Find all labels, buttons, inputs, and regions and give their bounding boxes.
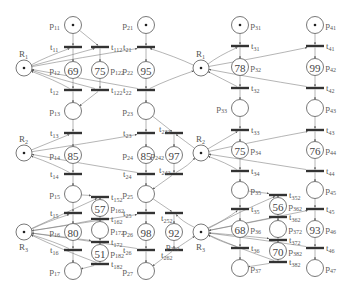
transition-label-t232-sub: 232 bbox=[162, 129, 171, 135]
place-p31: p31 bbox=[232, 17, 262, 34]
place-value: 76 bbox=[310, 145, 322, 157]
transition-label-t352: t352 bbox=[289, 190, 301, 201]
place-value: 85 bbox=[68, 150, 80, 162]
place-label-p42: p42 bbox=[326, 62, 337, 73]
place-label-p26-sub: 26 bbox=[127, 232, 133, 238]
place-label-p33-sub: 33 bbox=[221, 108, 227, 114]
place-label-p43: p43 bbox=[326, 103, 337, 114]
transition-label-t15-sub: 15 bbox=[53, 213, 59, 219]
transition-label-t182-sub: 182 bbox=[114, 264, 123, 270]
place-label-p162-sub: 162 bbox=[115, 208, 124, 214]
place-label-p13-sub: 13 bbox=[54, 111, 60, 117]
place-circle bbox=[65, 103, 82, 120]
transition-label-t262: t262 bbox=[161, 250, 173, 261]
place-label-p15: p15 bbox=[50, 189, 61, 200]
place-value: 69 bbox=[68, 65, 80, 77]
resource-arc-t22-R1M bbox=[150, 71, 194, 89]
transition-t34: t34 bbox=[231, 166, 260, 177]
transition-label-t12: t12 bbox=[50, 85, 59, 96]
transition-label-t43: t43 bbox=[326, 125, 335, 136]
transition-label-t14-sub: 14 bbox=[53, 174, 59, 180]
transition-label-t382-sub: 382 bbox=[292, 262, 301, 268]
place-p11: p11 bbox=[50, 17, 82, 34]
transition-label-t112: t112 bbox=[111, 42, 122, 53]
token-dot bbox=[200, 152, 203, 155]
transition-t44: t44 bbox=[306, 166, 335, 177]
transition-t26: t26 bbox=[123, 245, 155, 256]
place-label-p27: p27 bbox=[123, 266, 134, 277]
resource-label-R1-sub: 1 bbox=[25, 54, 28, 60]
transition-label-t45: t45 bbox=[326, 204, 335, 215]
place-label-p35-sub: 35 bbox=[255, 190, 261, 196]
place-label-p42-sub: 42 bbox=[330, 67, 336, 73]
transition-label-t41: t41 bbox=[326, 41, 335, 52]
transition-label-t172: t172 bbox=[111, 237, 123, 248]
transition-label-t16-sub: 16 bbox=[53, 250, 59, 256]
place-circle bbox=[138, 263, 155, 280]
resource-label-R1: R1 bbox=[19, 49, 28, 60]
place-circle bbox=[307, 182, 324, 199]
place-circle bbox=[232, 100, 249, 117]
place-label-p27-sub: 27 bbox=[127, 271, 133, 277]
place-label-p36: p36 bbox=[251, 224, 262, 235]
place-label-p23: p23 bbox=[123, 106, 134, 117]
place-p35: p35 bbox=[232, 182, 262, 199]
place-label-p37: p37 bbox=[251, 263, 262, 274]
resource-R2-left: R2 bbox=[16, 134, 32, 161]
place-p12: 69p12 bbox=[50, 62, 82, 79]
place-p122: 75p122 bbox=[92, 62, 125, 79]
place-p15: p15 bbox=[50, 186, 82, 203]
place-label-p372: p372 bbox=[289, 224, 303, 235]
transition-label-t26: t26 bbox=[123, 245, 132, 256]
place-label-p372-sub: 372 bbox=[293, 229, 302, 235]
transition-label-t24-sub: 24 bbox=[126, 174, 132, 180]
place-label-p31: p31 bbox=[251, 20, 262, 31]
place-label-p12: p12 bbox=[50, 65, 61, 76]
place-circle bbox=[92, 222, 109, 239]
transition-t36: t36 bbox=[231, 243, 260, 254]
transition-label-t21: t21 bbox=[123, 42, 132, 53]
token-dot bbox=[23, 152, 26, 155]
place-label-p46: p46 bbox=[326, 224, 337, 235]
transition-label-t43-sub: 43 bbox=[329, 130, 335, 136]
resource-arc-t34-R2M bbox=[208, 156, 236, 169]
token-dot bbox=[72, 24, 75, 27]
arc-t122-p13 bbox=[80, 92, 98, 106]
transition-label-t362-sub: 362 bbox=[292, 217, 301, 223]
place-value: 92 bbox=[169, 227, 180, 239]
resource-label-R2-sub: 2 bbox=[202, 139, 205, 145]
place-label-p43-sub: 43 bbox=[330, 108, 336, 114]
place-p14: 85p14 bbox=[50, 147, 82, 164]
transition-label-t13: t13 bbox=[50, 128, 59, 139]
resource-label-R1-sub: 1 bbox=[202, 54, 205, 60]
place-label-p44-sub: 44 bbox=[330, 150, 336, 156]
place-label-p25: p25 bbox=[123, 189, 134, 200]
place-label-p36-sub: 36 bbox=[255, 229, 261, 235]
place-label-p45-sub: 45 bbox=[330, 190, 336, 196]
transition-label-t31: t31 bbox=[251, 41, 260, 52]
resource-label-R3-sub: 3 bbox=[202, 247, 205, 253]
place-label-p17: p17 bbox=[50, 266, 61, 277]
resource-arc-t182-R3L bbox=[31, 235, 96, 262]
place-label-p362-sub: 362 bbox=[293, 206, 302, 212]
transition-label-t42-sub: 42 bbox=[329, 88, 335, 94]
place-p41: p41 bbox=[307, 17, 337, 34]
resource-R3-left: R3 bbox=[16, 224, 32, 253]
arc-p25-t252 bbox=[153, 199, 172, 212]
arc-t182-p17 bbox=[81, 266, 94, 269]
transition-label-t252-sub: 252 bbox=[164, 218, 173, 224]
transition-label-t36: t36 bbox=[251, 243, 260, 254]
place-label-p262: p262 bbox=[166, 241, 180, 252]
resource-arc-t44-R2M bbox=[209, 154, 306, 169]
place-p372: p372 bbox=[270, 221, 303, 238]
place-p21: p21 bbox=[123, 17, 155, 34]
place-value: 80 bbox=[68, 227, 80, 239]
transition-t25: t25 bbox=[123, 208, 155, 219]
transition-label-t242: t242 bbox=[159, 165, 171, 176]
place-circle bbox=[65, 186, 82, 203]
transition-label-t31-sub: 31 bbox=[254, 46, 260, 52]
resource-label-R3: R3 bbox=[19, 242, 28, 253]
place-p13: p13 bbox=[50, 103, 82, 120]
place-label-p26: p26 bbox=[123, 227, 134, 238]
resource-arc-R2M-t232 bbox=[176, 135, 195, 149]
